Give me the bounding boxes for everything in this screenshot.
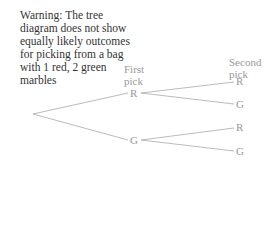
- second-pick-node-r1: R: [236, 75, 243, 87]
- first-pick-node-g: G: [130, 134, 138, 146]
- second-pick-node-g1: G: [236, 98, 244, 110]
- second-pick-node-r2: R: [236, 121, 243, 133]
- second-pick-node-g2: G: [236, 145, 244, 157]
- first-pick-node-r: R: [130, 87, 137, 99]
